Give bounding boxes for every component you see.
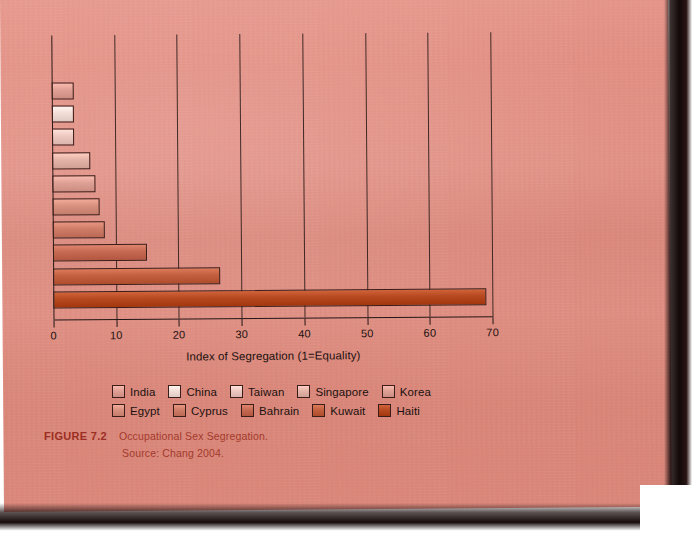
legend-label: Korea [400,386,431,398]
x-axis-line [54,316,494,321]
gridline [302,34,305,318]
legend-label: India [130,386,155,398]
scan-edge-corner [640,485,700,545]
bar-haiti [53,288,486,308]
bar-egypt [53,198,100,215]
legend-item-taiwan: Taiwan [230,385,284,398]
figure-title: Occupational Sex Segregation. [119,430,268,442]
scan-edge-bottom [0,503,700,545]
legend-item-china: China [168,385,217,398]
legend-swatch-icon [312,404,325,417]
legend-item-korea: Korea [382,385,431,398]
bar-korea [52,175,95,192]
legend-item-india: India [112,385,155,398]
figure-source: Source: Chang 2004. [122,447,444,459]
x-axis-tick [430,318,431,325]
legend-item-egypt: Egypt [112,404,160,417]
legend-label: Cyprus [191,405,228,417]
scan-edge-right [664,0,700,545]
bar-bahrain [53,244,147,262]
x-axis-tick-label: 50 [347,327,387,339]
legend-label: Taiwan [248,386,284,398]
legend-row-2: EgyptCyprusBahrainKuwaitHaiti [112,401,532,420]
gridline [490,32,493,316]
legend-label: China [186,386,217,398]
x-axis-tick [54,321,55,328]
x-axis-tick [367,318,368,325]
legend-swatch-icon [112,385,125,398]
legend-row-1: IndiaChinaTaiwanSingaporeKorea [112,382,532,401]
legend-item-singapore: Singapore [297,385,368,398]
legend-swatch-icon [173,404,186,417]
legend-swatch-icon [230,385,243,398]
x-axis-tick [493,317,494,324]
legend-item-cyprus: Cyprus [173,404,228,417]
x-axis-tick [304,319,305,326]
x-axis-tick-label: 40 [284,327,324,339]
x-axis-label: Index of Segregation (1=Equality) [54,348,493,363]
x-axis-tick-label: 60 [410,326,450,338]
chart-legend: IndiaChinaTaiwanSingaporeKorea EgyptCypr… [112,382,532,420]
legend-swatch-icon [168,385,181,398]
x-axis-tick [242,319,243,326]
x-axis-tick-label: 10 [96,329,136,341]
bar-kuwait [53,267,221,285]
legend-swatch-icon [378,404,391,417]
legend-item-kuwait: Kuwait [312,404,365,417]
legend-label: Kuwait [330,405,365,417]
legend-label: Bahrain [259,405,299,417]
gridline [239,34,242,318]
x-axis-tick-label: 20 [159,328,199,340]
legend-label: Egypt [130,405,160,417]
x-axis-tick-label: 0 [34,329,74,341]
legend-item-bahrain: Bahrain [241,404,299,417]
x-axis-tick-label: 70 [473,326,513,338]
scanned-book-page: 010203040506070 Index of Segregation (1=… [0,0,700,545]
figure-caption: FIGURE 7.2 Occupational Sex Segregation.… [44,430,444,459]
caption-line-1: FIGURE 7.2 Occupational Sex Segregation. [44,430,444,442]
legend-swatch-icon [241,404,254,417]
bar-singapore [52,152,90,169]
bar-india [52,82,74,99]
gridline [428,33,431,317]
bar-cyprus [53,221,105,238]
legend-label: Haiti [396,405,420,417]
x-axis-tick-label: 30 [222,328,262,340]
x-axis-tick [179,320,180,327]
legend-item-haiti: Haiti [378,404,420,417]
bar-china [52,106,74,123]
gridline [365,33,368,317]
figure-number: FIGURE 7.2 [44,430,107,442]
legend-swatch-icon [382,385,395,398]
x-axis-tick [116,320,117,327]
bar-taiwan [52,129,74,146]
legend-label: Singapore [315,386,368,398]
legend-swatch-icon [112,404,125,417]
legend-swatch-icon [297,385,310,398]
